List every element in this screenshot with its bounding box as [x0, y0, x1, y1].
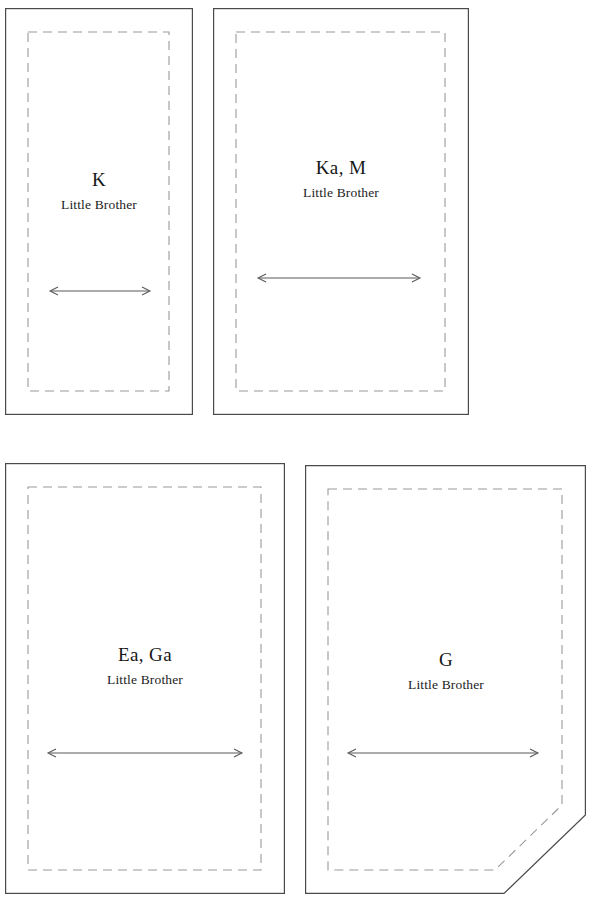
panel-g: G Little Brother [305, 465, 587, 894]
panel-ea-ga: Ea, Ga Little Brother [5, 463, 285, 894]
panel-g-outer-outline [306, 466, 586, 894]
panel-ka-m-outer-outline [214, 9, 469, 415]
panel-k: K Little Brother [5, 8, 193, 415]
panel-ka-m: Ka, M Little Brother [213, 8, 469, 415]
panel-ea-ga-shape [5, 463, 285, 894]
diagram-canvas: K Little Brother Ka, M Little Brother [0, 0, 592, 904]
panel-ka-m-shape [213, 8, 469, 415]
panel-k-outer-outline [6, 9, 193, 415]
panel-ea-ga-outer-outline [6, 464, 285, 894]
panel-k-shape [5, 8, 193, 415]
panel-g-shape [305, 465, 587, 894]
